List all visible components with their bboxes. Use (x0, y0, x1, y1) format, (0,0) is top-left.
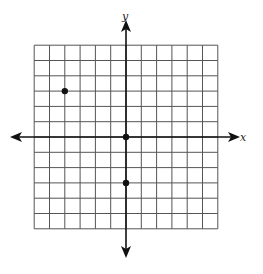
axes: x y (10, 10, 247, 258)
point-marker (62, 88, 68, 94)
point-marker (123, 180, 129, 186)
coordinate-plane: x y (0, 0, 263, 274)
point-marker (123, 134, 129, 140)
y-axis-label: y (121, 10, 129, 23)
x-axis-label: x (240, 131, 247, 144)
